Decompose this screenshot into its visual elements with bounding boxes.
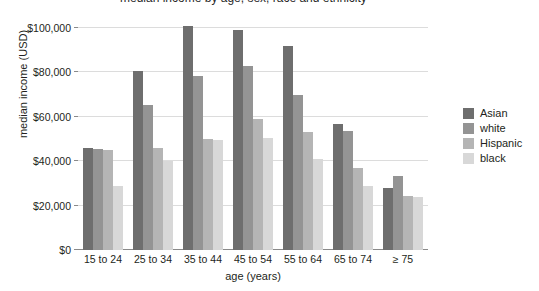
plot-area: $0$20,000$40,000$60,000$80,000$100,000: [78, 17, 428, 250]
bar: [213, 140, 223, 250]
legend-swatch-icon: [463, 138, 474, 149]
bar: [263, 138, 273, 250]
bar: [113, 186, 123, 250]
legend-swatch-icon: [463, 153, 474, 164]
bar: [83, 148, 93, 250]
legend-item: black: [463, 152, 522, 165]
bar-group: [78, 17, 128, 250]
x-tick-label: 25 to 34: [128, 253, 178, 265]
bar: [403, 196, 413, 250]
bar: [193, 76, 203, 250]
legend-label: black: [480, 153, 506, 164]
bar-group: [128, 17, 178, 250]
bar: [293, 95, 303, 250]
bar: [303, 132, 313, 250]
bar: [203, 139, 213, 250]
x-axis-tick-labels: 15 to 2425 to 3435 to 4445 to 5455 to 64…: [78, 253, 428, 265]
bar: [243, 66, 253, 250]
chart-title-text: median income by age, sex, race and ethn…: [120, 0, 367, 5]
bar: [383, 188, 393, 250]
bar: [103, 150, 113, 250]
y-tick-label: $100,000: [27, 22, 71, 34]
bar: [313, 159, 323, 250]
bar: [353, 168, 363, 250]
legend-label: white: [480, 123, 506, 134]
bar: [253, 119, 263, 250]
x-tick-label: 55 to 64: [278, 253, 328, 265]
legend-label: Asian: [480, 108, 508, 119]
bar: [343, 131, 353, 250]
bar: [393, 176, 403, 250]
x-tick-label: ≥ 75: [378, 253, 428, 265]
bar-chart: median income by age, sex, race and ethn…: [0, 0, 539, 291]
legend-item: Hispanic: [463, 137, 522, 150]
bar-group: [378, 17, 428, 250]
legend-item: Asian: [463, 107, 522, 120]
bar: [93, 149, 103, 250]
bar: [363, 186, 373, 250]
y-tick-label: $40,000: [33, 155, 71, 167]
y-tick-label: $20,000: [33, 200, 71, 212]
legend-swatch-icon: [463, 123, 474, 134]
bar: [163, 161, 173, 250]
bar-group: [178, 17, 228, 250]
x-tick-label: 45 to 54: [228, 253, 278, 265]
legend-swatch-icon: [463, 108, 474, 119]
y-tick-label: $0: [59, 244, 71, 256]
bar-groups: [78, 17, 428, 250]
legend-item: white: [463, 122, 522, 135]
bar-group: [228, 17, 278, 250]
bar: [283, 46, 293, 250]
y-tick-label: $80,000: [33, 66, 71, 78]
x-tick-label: 65 to 74: [328, 253, 378, 265]
bar-group: [328, 17, 378, 250]
bar: [333, 124, 343, 250]
y-tick-label: $60,000: [33, 111, 71, 123]
bar: [153, 148, 163, 250]
legend: AsianwhiteHispanicblack: [463, 107, 522, 165]
bar: [143, 105, 153, 250]
bar-group: [278, 17, 328, 250]
bar: [233, 30, 243, 250]
x-tick-label: 15 to 24: [78, 253, 128, 265]
chart-title-clipped: median income by age, sex, race and ethn…: [0, 0, 539, 7]
x-axis-title: age (years): [78, 270, 428, 282]
legend-label: Hispanic: [480, 138, 522, 149]
bar: [183, 26, 193, 250]
x-tick-label: 35 to 44: [178, 253, 228, 265]
bar: [133, 71, 143, 250]
bar: [413, 197, 423, 250]
